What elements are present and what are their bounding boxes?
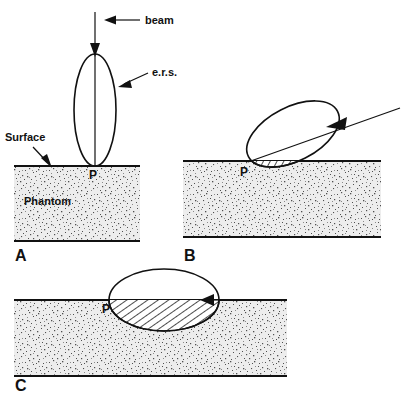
panel-letter-a: A [15,247,27,264]
point-p-label-c: P [102,302,110,316]
beam-callout-arrowhead-a [104,16,116,25]
panel-letter-c: C [15,377,27,394]
ers-label: e.r.s. [152,66,177,78]
panel-letter-b: B [184,247,196,264]
panel-a: beam e.r.s. Surface Phantom P A [5,12,177,264]
phantom-label: Phantom [24,195,71,207]
diagram-svg: beam e.r.s. Surface Phantom P A [0,0,406,394]
phantom-block-b [183,161,381,237]
figure-canvas: beam e.r.s. Surface Phantom P A [0,0,406,394]
beam-label: beam [145,14,174,26]
surface-label: Surface [5,131,45,143]
beam-arrowhead-b [326,117,347,130]
panel-b: P B [183,87,400,264]
point-p-label-a: P [89,168,97,182]
panel-c: P C [14,269,287,394]
point-p-label-b: P [240,165,248,179]
ers-callout-arrowhead-a [118,80,132,88]
